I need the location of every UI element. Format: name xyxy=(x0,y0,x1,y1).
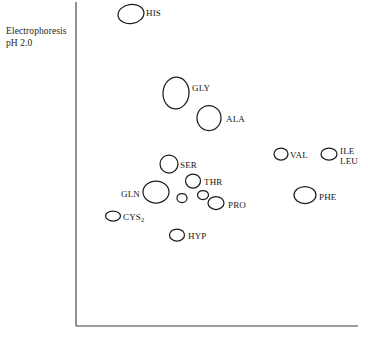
spot-hyp xyxy=(170,229,185,241)
spot-label-subscript: 2 xyxy=(141,216,144,223)
chromatogram-figure: Electrophoresis pH 2.0 HISGLYALASERVALIL… xyxy=(0,0,368,344)
spot-label-ile-leu: ILE LEU xyxy=(340,146,358,166)
axes-group xyxy=(76,2,358,326)
spot-cys2 xyxy=(106,211,121,221)
spot-label-thr: THR xyxy=(204,177,222,187)
spot-label-ala: ALA xyxy=(226,114,245,124)
spot-label-phe: PHE xyxy=(319,192,336,202)
plot-svg xyxy=(0,0,368,344)
spot-label-ser: SER xyxy=(180,160,197,170)
spot-gln xyxy=(143,181,169,203)
spot-phe xyxy=(294,187,316,204)
spot-val xyxy=(274,148,288,160)
spot-label-gln: GLN xyxy=(121,189,140,199)
spot-ala xyxy=(197,106,221,131)
spot-label-val: VAL xyxy=(290,150,308,160)
spot-label-hyp: HYP xyxy=(188,231,206,241)
spot-ile-leu xyxy=(321,148,337,160)
spot-gly xyxy=(162,76,190,110)
spot-unlabeled-small-1 xyxy=(177,194,187,203)
spot-pro xyxy=(208,197,224,210)
spot-label-pro: PRO xyxy=(228,200,246,210)
spot-ser xyxy=(160,155,178,173)
spot-his xyxy=(117,3,145,25)
spot-unlabeled-small-2 xyxy=(198,191,209,200)
spots-group xyxy=(106,3,338,241)
spot-label-cys2: CYS2 xyxy=(123,212,144,223)
spot-thr xyxy=(186,174,201,188)
electrophoresis-axis-label: Electrophoresis pH 2.0 xyxy=(6,26,67,49)
spot-label-gly: GLY xyxy=(192,83,210,93)
spot-label-his: HIS xyxy=(146,8,161,18)
